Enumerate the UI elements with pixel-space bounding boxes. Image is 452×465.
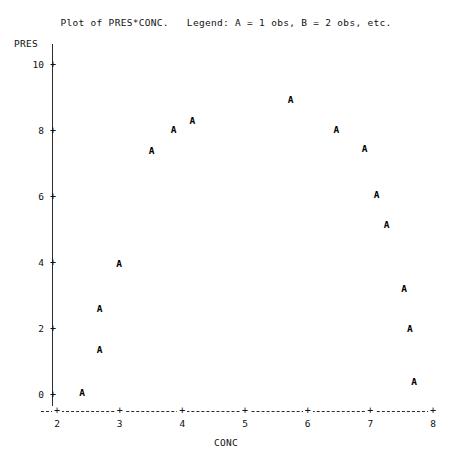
x-tick-mark: + bbox=[177, 406, 187, 416]
data-point: A bbox=[383, 220, 391, 230]
y-tick-mark: + bbox=[49, 390, 57, 400]
x-axis-line bbox=[41, 411, 435, 412]
data-point: A bbox=[148, 146, 156, 156]
chart-page: Plot of PRES*CONC. Legend: A = 1 obs, B … bbox=[0, 0, 452, 465]
x-tick-label: 4 bbox=[172, 419, 192, 429]
y-tick-label: 0 bbox=[14, 390, 44, 400]
y-axis-line bbox=[52, 44, 53, 412]
x-tick-mark: + bbox=[365, 406, 375, 416]
y-tick-mark: + bbox=[49, 60, 57, 70]
data-point: A bbox=[406, 324, 414, 334]
y-tick-label: 6 bbox=[14, 192, 44, 202]
y-tick-label: 10 bbox=[14, 60, 44, 70]
y-tick-label: 4 bbox=[14, 258, 44, 268]
data-point: A bbox=[115, 259, 123, 269]
data-point: A bbox=[373, 190, 381, 200]
data-point: A bbox=[361, 144, 369, 154]
x-tick-mark: + bbox=[240, 406, 250, 416]
x-tick-label: 8 bbox=[423, 419, 443, 429]
y-tick-mark: + bbox=[49, 126, 57, 136]
y-tick-label: 8 bbox=[14, 126, 44, 136]
x-tick-mark: + bbox=[52, 406, 62, 416]
x-axis-title: CONC bbox=[0, 437, 452, 448]
data-point: A bbox=[96, 345, 104, 355]
y-tick-mark: + bbox=[49, 258, 57, 268]
data-point: A bbox=[332, 125, 340, 135]
y-axis-title: PRES bbox=[14, 38, 38, 49]
data-point: A bbox=[96, 304, 104, 314]
x-tick-mark: + bbox=[428, 406, 438, 416]
y-tick-mark: + bbox=[49, 324, 57, 334]
x-tick-label: 5 bbox=[235, 419, 255, 429]
x-tick-label: 3 bbox=[110, 419, 130, 429]
x-tick-label: 7 bbox=[360, 419, 380, 429]
data-point: A bbox=[400, 284, 408, 294]
data-point: A bbox=[170, 125, 178, 135]
data-point: A bbox=[410, 377, 418, 387]
x-tick-label: 2 bbox=[47, 419, 67, 429]
data-point: A bbox=[188, 116, 196, 126]
x-tick-mark: + bbox=[303, 406, 313, 416]
x-tick-mark: + bbox=[115, 406, 125, 416]
y-tick-mark: + bbox=[49, 192, 57, 202]
x-tick-label: 6 bbox=[298, 419, 318, 429]
data-point: A bbox=[78, 388, 86, 398]
data-point: A bbox=[287, 95, 295, 105]
y-tick-label: 2 bbox=[14, 324, 44, 334]
chart-title: Plot of PRES*CONC. Legend: A = 1 obs, B … bbox=[0, 17, 452, 28]
